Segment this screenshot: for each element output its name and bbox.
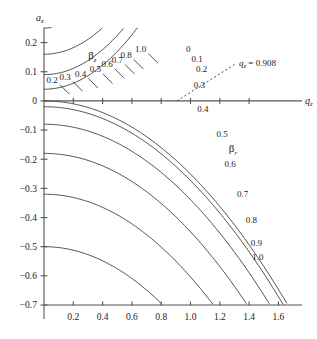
q-boundary-annotation: qz = 0.908 bbox=[239, 58, 276, 69]
beta-r-curve-0-5 bbox=[44, 247, 162, 304]
beta-z-label-0-5: 0.5 bbox=[90, 64, 102, 74]
y-tick-label-9: −0.7 bbox=[20, 300, 37, 310]
y-tick-label-4: −0.2 bbox=[20, 155, 37, 165]
beta-z-label-0-4: 0.4 bbox=[75, 69, 87, 79]
beta-r-family-label: βr bbox=[229, 142, 238, 157]
x-tick-label-0: 0.2 bbox=[67, 312, 79, 322]
beta-z-label-0-2: 0.2 bbox=[46, 75, 57, 85]
beta-r-label-0-2: 0.2 bbox=[196, 64, 207, 74]
beta-r-label-0-5: 0.5 bbox=[216, 129, 228, 139]
y-tick-label-8: −0.6 bbox=[20, 271, 37, 281]
x-tick-label-4: 1.0 bbox=[185, 312, 197, 322]
beta-r-label-0: 0 bbox=[186, 44, 191, 54]
beta-r-curve-0 bbox=[44, 101, 287, 303]
y-tick-label-5: −0.3 bbox=[20, 184, 37, 194]
beta-r-label-0-4: 0.4 bbox=[197, 104, 209, 114]
x-tick-label-1: 0.4 bbox=[97, 312, 109, 322]
x-tick-label-3: 0.8 bbox=[155, 312, 167, 322]
beta-z-label-0-3: 0.3 bbox=[60, 72, 72, 82]
label-layer: 0.20.40.60.81.01.21.41.60.20.10−0.1−0.2−… bbox=[20, 12, 313, 322]
beta-z-leader-6 bbox=[134, 60, 143, 69]
x-axis-title: qz bbox=[305, 95, 313, 107]
beta-r-label-0-7: 0.7 bbox=[237, 189, 249, 199]
beta-r-label-0-9: 0.9 bbox=[251, 238, 263, 248]
y-tick-label-3: −0.1 bbox=[20, 125, 37, 135]
y-tick-label-7: −0.5 bbox=[20, 242, 37, 252]
beta-z-leader-7 bbox=[149, 54, 158, 63]
x-tick-label-5: 1.2 bbox=[214, 312, 226, 322]
beta-z-leader-1 bbox=[73, 82, 82, 91]
y-tick-label-0: 0.2 bbox=[25, 38, 37, 48]
plot-canvas: 0.20.40.60.81.01.21.41.60.20.10−0.1−0.2−… bbox=[0, 0, 317, 339]
beta-r-label-1-0: 1.0 bbox=[252, 252, 264, 262]
y-tick-label-6: −0.4 bbox=[20, 213, 37, 223]
beta-z-leader-3 bbox=[103, 74, 112, 83]
beta-z-leader-2 bbox=[89, 79, 98, 88]
beta-r-label-0-1: 0.1 bbox=[191, 54, 202, 64]
beta-z-family-label: βz bbox=[88, 49, 97, 64]
beta-z-label-0-8: 0.8 bbox=[120, 50, 132, 60]
x-tick-label-6: 1.4 bbox=[243, 312, 255, 322]
beta-z-leader-5 bbox=[125, 65, 134, 74]
beta-r-label-0-6: 0.6 bbox=[224, 159, 236, 169]
y-tick-label-1: 0.1 bbox=[25, 67, 37, 77]
beta-r-label-0-3: 0.3 bbox=[194, 80, 206, 90]
y-tick-label-2: 0 bbox=[32, 96, 37, 106]
beta-z-leader-4 bbox=[115, 69, 124, 78]
mathieu-stability-diagram: 0.20.40.60.81.01.21.41.60.20.10−0.1−0.2−… bbox=[0, 0, 317, 339]
x-tick-label-7: 1.6 bbox=[272, 312, 284, 322]
beta-z-label-1-0: 1.0 bbox=[135, 44, 147, 54]
beta-r-label-0-8: 0.8 bbox=[246, 215, 258, 225]
x-tick-label-2: 0.6 bbox=[126, 312, 138, 322]
y-axis-title: az bbox=[36, 12, 44, 24]
